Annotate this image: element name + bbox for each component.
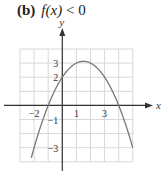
y-tick-label: 3	[53, 58, 58, 69]
x-tick-label: −2	[29, 108, 40, 119]
x-tick-label: 3	[102, 108, 107, 119]
y-tick-label: 2	[53, 72, 58, 83]
y-tick-label: −1	[48, 115, 59, 126]
plot-area: xy−21332−1−3	[0, 0, 161, 174]
y-axis-label: y	[58, 16, 64, 28]
y-axis-arrow-icon	[59, 28, 65, 36]
x-tick-label: 1	[74, 108, 79, 119]
x-axis-arrow-icon	[145, 102, 153, 108]
x-axis-label: x	[155, 99, 161, 111]
y-tick-label: −3	[48, 143, 59, 154]
function-curve	[31, 61, 133, 158]
